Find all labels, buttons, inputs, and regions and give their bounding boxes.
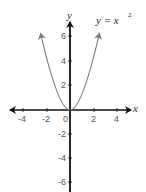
x-tick-label: -4 bbox=[18, 114, 26, 124]
x-axis: x -4 -2 0 2 4 bbox=[10, 102, 138, 124]
y-tick-label: -6 bbox=[58, 177, 66, 187]
y-axis: y 6 4 2 -2 -4 -6 bbox=[58, 9, 72, 192]
x-axis-label: x bbox=[132, 102, 138, 114]
equation-label: y = x 2 bbox=[95, 11, 132, 26]
y-tick-label: -2 bbox=[58, 129, 66, 139]
equation-text: y = x bbox=[95, 14, 119, 26]
x-tick-label: 4 bbox=[114, 114, 119, 124]
y-tick-label: 2 bbox=[61, 80, 66, 90]
equation-superscript: 2 bbox=[128, 11, 132, 19]
y-axis-label: y bbox=[66, 9, 72, 21]
y-tick-label: 6 bbox=[61, 31, 66, 41]
x-tick-label: 0 bbox=[63, 114, 68, 124]
y-tick-label: -4 bbox=[58, 153, 66, 163]
y-tick-label: 4 bbox=[61, 56, 66, 66]
parabola-graph: x -4 -2 0 2 4 y 6 4 2 -2 -4 -6 y = x bbox=[0, 0, 146, 192]
x-tick-label: -2 bbox=[42, 114, 50, 124]
x-tick-label: 2 bbox=[91, 114, 96, 124]
